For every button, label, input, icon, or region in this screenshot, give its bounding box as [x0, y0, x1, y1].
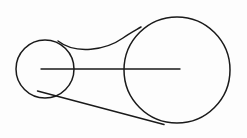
- diagram-canvas: Two circles joined by a tangent line and…: [0, 0, 247, 138]
- figure-svg: [0, 0, 247, 138]
